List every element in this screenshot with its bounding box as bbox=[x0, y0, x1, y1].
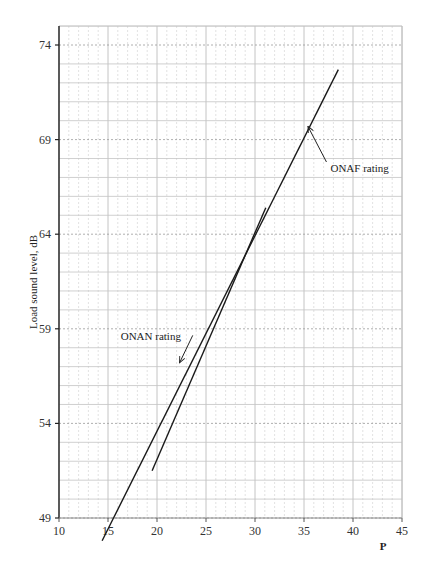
grid bbox=[59, 26, 402, 518]
y-tick-label: 49 bbox=[39, 511, 51, 525]
y-axis-label: Load sound level, dB bbox=[27, 235, 39, 329]
series-lines bbox=[102, 70, 338, 541]
line-chart: 4954596469741015202530354045 ONAF rating… bbox=[0, 0, 425, 570]
annotation-label: ONAN rating bbox=[121, 330, 182, 342]
y-tick-label: 59 bbox=[39, 322, 51, 336]
y-tick-label: 54 bbox=[39, 416, 51, 430]
x-tick-label: 25 bbox=[200, 524, 212, 538]
x-tick-label: 30 bbox=[249, 524, 261, 538]
x-tick-label: 40 bbox=[347, 524, 359, 538]
y-tick-label: 74 bbox=[39, 38, 51, 52]
x-tick-label: 10 bbox=[53, 524, 65, 538]
onaf-rating-line bbox=[102, 70, 338, 541]
x-axis-label: P bbox=[380, 540, 387, 552]
x-tick-label: 20 bbox=[151, 524, 163, 538]
annotation-label: ONAF rating bbox=[330, 162, 389, 174]
x-tick-label: 45 bbox=[396, 524, 408, 538]
x-tick-label: 35 bbox=[298, 524, 310, 538]
y-tick-label: 64 bbox=[39, 227, 51, 241]
y-tick-label: 69 bbox=[39, 133, 51, 147]
